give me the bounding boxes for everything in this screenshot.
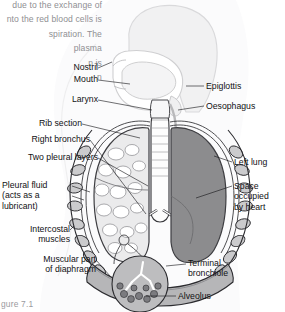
label-alveolus: Alveolus (178, 291, 238, 301)
label-larynx: Larynx (48, 94, 98, 104)
label-left-lung: Left lung (234, 157, 284, 167)
label-space-occupied-by-heart: Space occupied by heart (234, 181, 284, 212)
label-nostril: Nostril (52, 62, 98, 72)
label-rib-section: Rib section (18, 118, 82, 128)
label-mouth: Mouth (48, 74, 98, 84)
label-muscular-part-of-diaphragm: Muscular part of diaphragm (12, 254, 96, 275)
label-intercostal-muscles: Intercostal muscles (6, 224, 70, 245)
figure-caption: gure 7.1 (1, 299, 33, 309)
figure-canvas: due to the exchange of nto the red blood… (0, 0, 285, 312)
label-two-pleural-layers: Two pleural layers (0, 152, 98, 162)
label-oesophagus: Oesophagus (206, 101, 284, 111)
label-pleural-fluid: Pleural fluid (acts as a lubricant) (2, 180, 72, 211)
label-terminal-bronchiole: Terminal bronchiole (188, 258, 248, 279)
label-right-bronchus: Right bronchus (6, 134, 90, 144)
label-epiglottis: Epiglottis (206, 81, 282, 91)
